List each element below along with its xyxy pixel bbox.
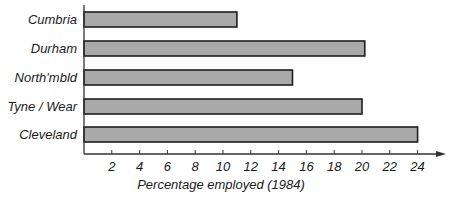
bar-chart: CumbriaDurhamNorth'mbldTyne / WearClevel…: [0, 0, 455, 197]
x-tick-label: 8: [192, 159, 200, 174]
category-label: Cumbria: [28, 12, 77, 27]
x-tick-label: 18: [327, 159, 342, 174]
x-tick-label: 12: [244, 159, 259, 174]
bar-tyne-wear: [84, 99, 362, 114]
x-tick-label: 6: [164, 159, 172, 174]
x-tick-label: 24: [409, 159, 424, 174]
category-label: Cleveland: [19, 127, 78, 142]
category-label: Durham: [31, 41, 77, 56]
x-tick-label: 10: [216, 159, 231, 174]
bars-group: [84, 12, 418, 142]
category-label: Tyne / Wear: [7, 99, 77, 114]
x-tick-label: 16: [299, 159, 314, 174]
category-labels: CumbriaDurhamNorth'mbldTyne / WearClevel…: [7, 12, 77, 142]
x-tick-label: 20: [354, 159, 370, 174]
x-tick-label: 2: [107, 159, 116, 174]
bar-north-mbld: [84, 70, 293, 85]
x-tick-label: 14: [271, 159, 285, 174]
bar-durham: [84, 41, 365, 56]
x-axis-arrow-icon: [436, 151, 446, 157]
bar-cumbria: [84, 12, 237, 27]
x-tick-label: 22: [382, 159, 398, 174]
x-axis-title: Percentage employed (1984): [137, 177, 305, 192]
x-tick-label: 4: [136, 159, 143, 174]
category-label: North'mbld: [15, 70, 78, 85]
bar-cleveland: [84, 127, 418, 142]
